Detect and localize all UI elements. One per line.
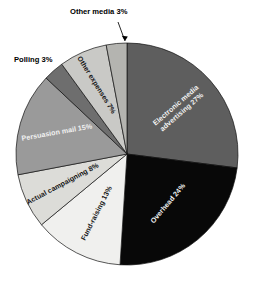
callout-arrowhead-other-media xyxy=(122,36,128,41)
callout-label-polling: Polling 3% xyxy=(14,55,53,64)
callout-label-other-media: Other media 3% xyxy=(70,7,128,16)
pie-chart-figure: Electronic mediaadvertising 27%Overhead … xyxy=(0,0,253,288)
pie-slices-group xyxy=(16,43,238,265)
pie-slice-overhead[interactable] xyxy=(120,154,237,265)
pie-chart-svg: Electronic mediaadvertising 27%Overhead … xyxy=(0,0,253,288)
